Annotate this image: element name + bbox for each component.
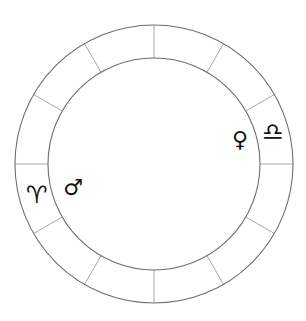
segment-divider <box>246 217 275 234</box>
zodiac-wheel <box>0 0 306 321</box>
segment-divider <box>207 256 224 285</box>
segment-divider <box>246 95 275 112</box>
libra-sign-icon: ♎︎ <box>262 120 284 144</box>
segment-divider <box>85 256 102 285</box>
segment-dividers <box>15 25 293 303</box>
aries-sign-icon: ♈︎ <box>26 183 48 207</box>
mars-planet-icon: ♂ <box>63 177 83 199</box>
segment-divider <box>34 217 63 234</box>
outer-ring <box>15 25 293 303</box>
venus-planet-icon: ♀ <box>232 129 248 151</box>
inner-ring <box>48 58 260 270</box>
segment-divider <box>34 95 63 112</box>
segment-divider <box>85 44 102 73</box>
segment-divider <box>207 44 224 73</box>
